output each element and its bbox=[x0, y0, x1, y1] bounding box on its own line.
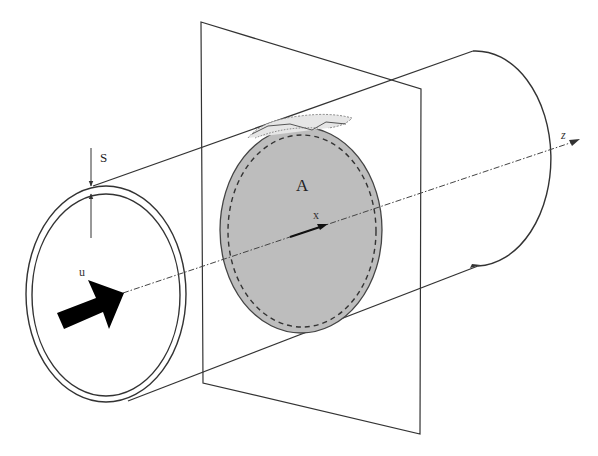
pipe-cross-section-diagram: z x A S u bbox=[0, 0, 598, 456]
z-axis-arrow-icon bbox=[569, 139, 580, 146]
x-axis-label: x bbox=[313, 208, 319, 222]
thickness-label: S bbox=[100, 150, 107, 165]
velocity-label: u bbox=[79, 265, 85, 279]
z-axis-label: z bbox=[560, 128, 566, 142]
far-end-ellipse bbox=[473, 51, 551, 266]
area-label: A bbox=[296, 176, 309, 195]
section-area-A bbox=[220, 127, 382, 333]
